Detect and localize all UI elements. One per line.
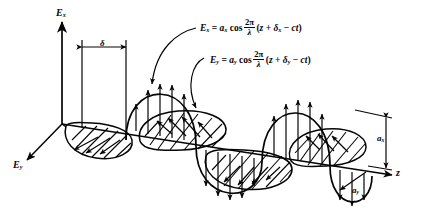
z-axis-label: zz [396,168,400,178]
ey-axis-line [27,124,62,160]
ey-equation: Ey = ay cos (2π/λ)(z + δy − ct) Ey = ay … [210,50,311,69]
leader-ey [191,58,204,108]
ex-equation: Ex = ax cos (2π/λ)(z + δx − ct) Ex = ax … [200,18,302,37]
ey-axis-label: EyEy [13,160,22,171]
ey-wave-lobes [65,111,366,190]
delta-label: δ [100,39,105,48]
amplitude-x-marker [355,110,392,170]
amplitude-y-label: ayay [352,186,359,196]
ex-wave-curves [126,94,372,202]
ey-lobe-2 [139,111,226,151]
ex-axis-label: ExEx [56,8,66,19]
hatch-lobe-2 [145,113,226,150]
leader-ex [152,28,196,84]
amplitude-x-label: axax [377,134,384,144]
figure-root: ExEx EyEy zz δ axax ayay Ex = ax cos (2π… [0,0,435,222]
